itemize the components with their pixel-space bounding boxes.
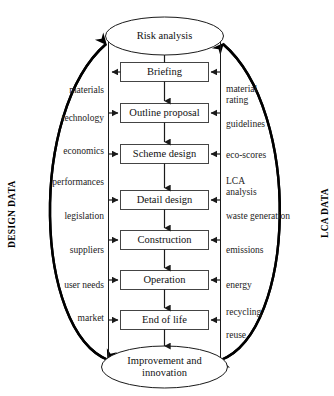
right-input-waste-generation: waste generation	[226, 211, 330, 222]
improvement-label-line1: Improvement and	[102, 355, 227, 367]
risk-analysis-label: Risk analysis	[105, 30, 224, 42]
right-input-emissions: emissions	[226, 245, 322, 256]
stage-box-end-of-life[interactable]: End of life	[120, 314, 209, 325]
right-input-reuse: reuse	[226, 330, 322, 341]
right-input-energy: energy	[226, 280, 322, 291]
right-connectors	[211, 72, 221, 320]
left-input-technology: technology	[20, 113, 104, 124]
right-input-eco-scores: eco-scores	[226, 150, 322, 161]
stage-box-detail-design[interactable]: Detail design	[120, 194, 209, 205]
right-input-recycling: recycling	[226, 307, 322, 318]
axis-label-lca-data: LCA DATA	[320, 188, 330, 238]
process-flow-diagram: Risk analysis Improvement and innovation…	[0, 0, 334, 396]
right-input-lca-analysis: LCA analysis	[226, 176, 322, 197]
right-input-guidelines: guidelines	[226, 119, 322, 130]
axis-label-design-data: DESIGN DATA	[7, 180, 17, 248]
right-input-material-rating: material rating	[226, 84, 322, 105]
improvement-label-line2: innovation	[102, 367, 227, 379]
stage-box-briefing[interactable]: Briefing	[120, 66, 209, 77]
left-input-performances: performances	[16, 177, 104, 188]
left-input-legislation: legislation	[20, 211, 104, 222]
left-input-suppliers: suppliers	[20, 245, 104, 256]
stage-box-operation[interactable]: Operation	[120, 274, 209, 285]
left-input-market: market	[20, 313, 104, 324]
stage-box-construction[interactable]: Construction	[120, 234, 209, 245]
stage-box-outline-proposal[interactable]: Outline proposal	[120, 107, 209, 118]
left-connectors	[109, 72, 121, 320]
left-input-user-needs: user needs	[20, 280, 104, 291]
stage-box-scheme-design[interactable]: Scheme design	[120, 148, 209, 159]
left-input-economics: economics	[20, 146, 104, 157]
left-input-materials: materials	[20, 85, 104, 96]
